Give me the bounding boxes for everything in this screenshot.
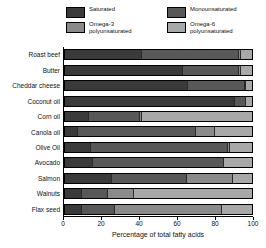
bar-segment (65, 81, 188, 90)
y-axis-label: Walnuts (0, 190, 60, 197)
legend-label-omega-3: Omega-3 polyunsaturated (89, 21, 132, 35)
y-axis-label: Canola oil (0, 129, 60, 136)
stacked-bar (64, 142, 253, 153)
bar-row (64, 171, 253, 186)
y-axis-label: Salmon (0, 175, 60, 182)
bar-segment (188, 81, 244, 90)
bar-segment (65, 50, 142, 59)
bar-segment (115, 205, 222, 214)
legend-label-saturated: Saturated (89, 6, 115, 13)
stacked-bar (64, 80, 253, 91)
stacked-bar (64, 173, 253, 184)
bar-row (64, 78, 253, 93)
bar-segment (65, 143, 91, 152)
stacked-bar (64, 96, 253, 107)
stacked-bar (64, 126, 253, 137)
bar-row (64, 155, 253, 170)
bar-segment (224, 158, 252, 167)
bar-segment (65, 112, 89, 121)
bar-segment (187, 174, 234, 183)
fatty-acid-composition-chart: Saturated Monounsaturated Omega-3 polyun… (0, 0, 266, 248)
bar-segment (183, 66, 239, 75)
bar-segment (142, 50, 239, 59)
legend-label-omega-6: Omega-6 polyunsaturated (190, 21, 233, 35)
legend-label-monounsaturated: Monounsaturated (190, 6, 237, 13)
bar-segment (215, 127, 252, 136)
x-tick-label: 0 (61, 220, 65, 228)
bar-segment (108, 189, 134, 198)
bar-segment (142, 112, 252, 121)
legend-swatch-omega-3 (66, 22, 85, 33)
bar-row (64, 109, 253, 124)
bar-segment (134, 189, 252, 198)
bar-row (64, 124, 253, 139)
y-axis-label: Corn oil (0, 113, 60, 120)
stacked-bar (64, 157, 253, 168)
stacked-bar (64, 111, 253, 122)
bar-segment (78, 127, 196, 136)
x-tick-label: 80 (211, 220, 218, 228)
bar-segment (241, 66, 252, 75)
legend-swatch-omega-6 (167, 22, 186, 33)
legend-swatch-monounsaturated (167, 7, 186, 18)
stacked-bar (64, 65, 253, 76)
bar-segment (65, 189, 82, 198)
stacked-bar (64, 188, 253, 199)
y-axis-label: Cheddar cheese (0, 82, 60, 89)
bar-row (64, 140, 253, 155)
bar-row (64, 47, 253, 62)
bar-segment (222, 205, 252, 214)
y-axis-labels: Roast beefButterCheddar cheeseCoconut oi… (0, 47, 60, 217)
x-tick-label: 40 (135, 220, 142, 228)
bar-segment (82, 205, 116, 214)
bar-segment (65, 66, 183, 75)
y-axis-label: Butter (0, 67, 60, 74)
bar-segment (89, 112, 139, 121)
bar-row (64, 186, 253, 201)
y-axis-label: Flax seed (0, 206, 60, 213)
bar-segment (233, 174, 252, 183)
plot-area (63, 47, 253, 217)
y-axis-label: Coconut oil (0, 98, 60, 105)
legend-item-monounsaturated: Monounsaturated (167, 6, 262, 18)
bar-segment (65, 97, 235, 106)
bar-segment (246, 97, 252, 106)
legend-item-saturated: Saturated (66, 6, 161, 18)
bar-segment (82, 189, 108, 198)
bar-segment (246, 81, 252, 90)
bar-row (64, 202, 253, 217)
x-axis-title: Percentage of total fatty acids (63, 231, 253, 238)
bar-row (64, 93, 253, 108)
chart-legend: Saturated Monounsaturated Omega-3 polyun… (66, 6, 262, 35)
x-tick-label: 100 (248, 220, 259, 228)
bar-segment (230, 143, 252, 152)
bar-segment (112, 174, 187, 183)
legend-swatch-saturated (66, 7, 85, 18)
bar-segment (235, 97, 246, 106)
x-tick-label: 20 (97, 220, 104, 228)
bar-segment (196, 127, 215, 136)
bar-segment (91, 143, 228, 152)
legend-item-omega-6: Omega-6 polyunsaturated (167, 21, 262, 35)
stacked-bar (64, 204, 253, 215)
y-axis-label: Roast beef (0, 51, 60, 58)
y-axis-label: Olive Oil (0, 144, 60, 151)
bar-segment (65, 174, 112, 183)
bar-row (64, 62, 253, 77)
legend-item-omega-3: Omega-3 polyunsaturated (66, 21, 161, 35)
x-tick-label: 60 (173, 220, 180, 228)
stacked-bar (64, 49, 253, 60)
bar-segment (65, 127, 78, 136)
bar-segment (93, 158, 224, 167)
x-axis-ticks: 020406080100 (63, 217, 253, 229)
bar-segment (241, 50, 252, 59)
y-axis-label: Avocado (0, 159, 60, 166)
bar-segment (65, 205, 82, 214)
bar-segment (65, 158, 93, 167)
